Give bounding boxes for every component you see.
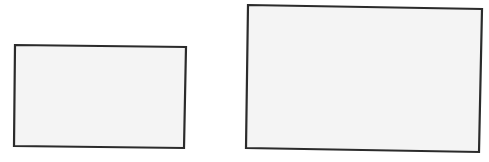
large-rectangle [246, 5, 482, 152]
small-rectangle [14, 45, 186, 148]
diagram-canvas [0, 0, 489, 162]
